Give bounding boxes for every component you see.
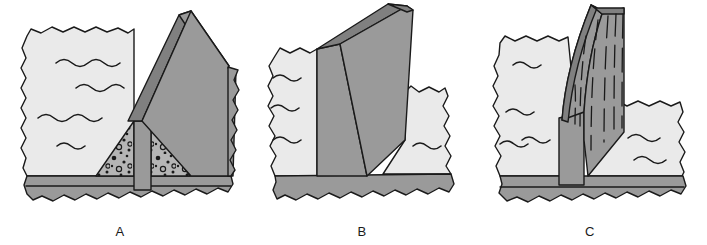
panel-label-b: B: [342, 224, 382, 239]
basement-layer-b: [273, 174, 454, 200]
panel-label-c: C: [570, 224, 610, 239]
basement-layer-c: [499, 176, 686, 202]
block-diagram-panel-b: B: [255, 0, 470, 245]
block-diagram-panel-a: A: [0, 0, 240, 245]
figure-container: A: [0, 0, 707, 245]
central-pillar-a: [134, 121, 151, 190]
basement-layer-a: [24, 176, 233, 201]
panel-label-a: A: [100, 224, 140, 239]
light-bedded-rock-block-left-b: [268, 48, 317, 176]
block-diagram-panel-c: C: [480, 0, 707, 245]
